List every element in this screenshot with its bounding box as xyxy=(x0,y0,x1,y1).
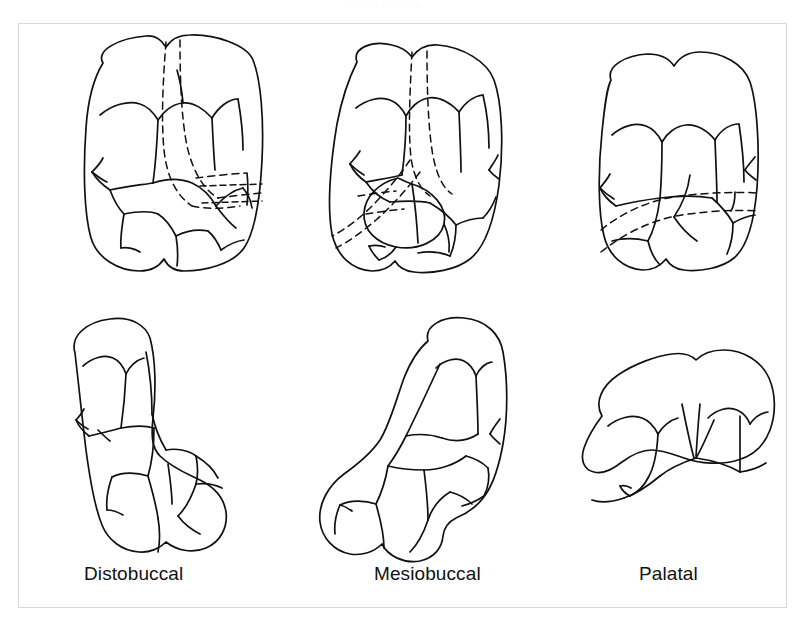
tooth-drawing-occlusal-palatal xyxy=(585,38,775,288)
tooth-drawing-occlusal-mesiobuccal xyxy=(315,28,525,288)
tooth-drawing-profile-palatal xyxy=(570,340,785,485)
column-label-mesiobuccal: Mesiobuccal xyxy=(374,563,481,585)
tooth-drawing-occlusal-distobuccal xyxy=(60,28,280,288)
tooth-drawing-profile-distobuccal xyxy=(60,305,245,555)
figure-root: Maxillary First Molar xyxy=(0,0,811,634)
top-caption: Maxillary First Molar xyxy=(345,1,470,10)
column-label-distobuccal: Distobuccal xyxy=(84,563,183,585)
column-label-palatal: Palatal xyxy=(639,563,698,585)
tooth-drawing-profile-mesiobuccal xyxy=(305,305,520,560)
